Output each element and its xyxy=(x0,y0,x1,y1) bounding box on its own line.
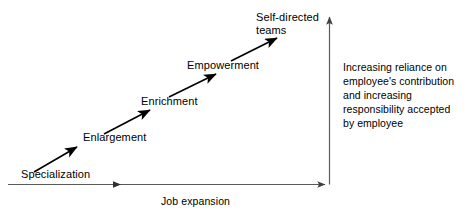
stage-label-self-directed-teams-line2: teams xyxy=(256,24,319,37)
stage-label-self-directed-teams: Self-directed teams xyxy=(256,11,319,37)
y-axis-note: Increasing reliance on employee's contri… xyxy=(343,60,467,130)
stage-arrow-4 xyxy=(231,38,277,61)
y-axis-note-line-4: responsibility accepted xyxy=(343,102,467,116)
x-axis-label: Job expansion xyxy=(161,195,230,207)
y-axis-note-line-3: and increasing xyxy=(343,88,467,102)
stage-label-enrichment: Enrichment xyxy=(141,95,198,108)
stage-arrow-3 xyxy=(169,74,216,97)
stage-label-specialization: Specialization xyxy=(21,168,90,181)
y-axis-note-line-1: Increasing reliance on xyxy=(343,60,467,74)
y-axis-note-line-2: employee's contribution xyxy=(343,74,467,88)
y-axis-note-line-5: by employee xyxy=(343,116,467,130)
x-axis-mid-arrowhead xyxy=(113,181,121,188)
stage-label-enlargement: Enlargement xyxy=(83,131,146,144)
stage-label-empowerment: Empowerment xyxy=(187,59,259,72)
stage-label-self-directed-teams-line1: Self-directed xyxy=(256,11,319,24)
job-expansion-diagram: Self-directed teams Empowerment Enrichme… xyxy=(0,0,467,220)
